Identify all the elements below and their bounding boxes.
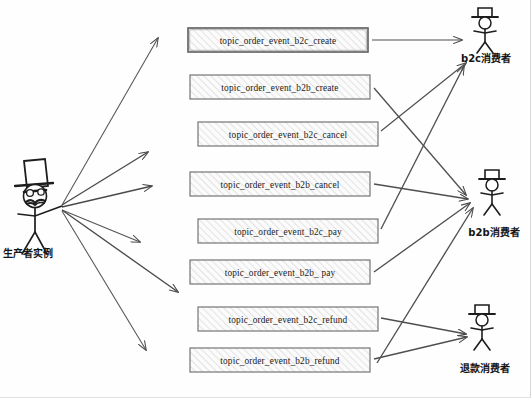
actor-layer: 生产者实例 b2c消费者 <box>0 0 532 399</box>
stick-figure-with-hat-icon <box>472 8 498 53</box>
producer-label: 生产者实例 <box>3 247 53 259</box>
consumer-label-b2c: b2c消费者 <box>461 52 511 64</box>
producer-actor[interactable]: 生产者实例 <box>3 159 62 259</box>
consumer-actor-refund[interactable]: 退款消费者 <box>460 305 510 374</box>
stick-figure-with-tophat-glasses-mustache-icon <box>15 159 62 254</box>
consumer-label-refund: 退款消费者 <box>460 362 510 374</box>
diagram-canvas: topic_order_event_b2c_create topic_order… <box>0 0 532 399</box>
consumer-actor-b2b[interactable]: b2b消费者 <box>468 170 519 238</box>
consumer-label-b2b: b2b消费者 <box>468 226 519 238</box>
stick-figure-with-hat-icon <box>469 305 495 350</box>
stick-figure-with-hat-icon <box>479 170 505 215</box>
consumer-actor-b2c[interactable]: b2c消费者 <box>461 8 511 64</box>
